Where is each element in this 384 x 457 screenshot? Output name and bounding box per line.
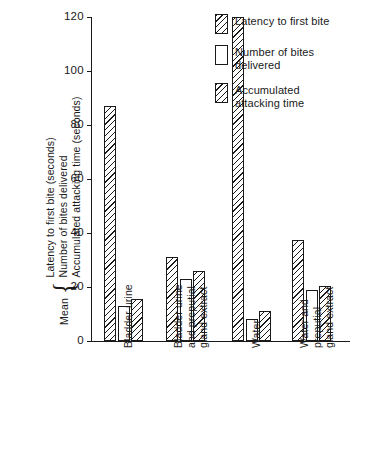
legend-label-latency: Latency to first bite xyxy=(235,14,329,28)
chart-legend: Latency to first bite Number of bites de… xyxy=(215,14,384,121)
x-axis-category-label-line: Bladder urine xyxy=(172,284,185,348)
y-axis-label-line-1: Latency to first bite (seconds) xyxy=(44,97,57,278)
y-axis-mean-label: Mean xyxy=(58,298,70,325)
y-axis-tick-label: 60 xyxy=(71,172,84,184)
y-axis-tick-mark xyxy=(87,179,92,180)
legend-label-line: delivered xyxy=(235,59,314,72)
x-axis-category-label-line: gland extract xyxy=(197,284,210,348)
x-axis-category-label-line: Water and xyxy=(298,287,311,348)
legend-label-line: Latency to first bite xyxy=(235,15,329,28)
y-axis-title-block: Mean { Latency to first bite (seconds) N… xyxy=(0,0,56,360)
x-axis-category-label: Water andpreputialgland extract xyxy=(298,287,336,348)
legend-item-latency: Latency to first bite xyxy=(215,14,384,34)
y-axis-tick-mark xyxy=(87,233,92,234)
legend-label-attacking-time: Accumulated attacking time xyxy=(235,83,304,110)
x-axis-category-label: Bladder urineand preputialgland extract xyxy=(172,284,210,348)
y-axis-tick-label: 100 xyxy=(64,64,84,76)
x-axis-category-label-line: and preputial xyxy=(184,284,197,348)
y-axis-tick-label: 0 xyxy=(77,334,84,346)
legend-swatch-hatched-icon xyxy=(215,83,228,103)
x-axis-category-label-line: Water xyxy=(250,320,263,348)
legend-label-line: Accumulated xyxy=(235,84,304,97)
y-axis-tick-mark xyxy=(87,287,92,288)
y-axis-label-line-2: Number of bites delivered xyxy=(57,97,70,278)
y-axis-tick-mark xyxy=(87,71,92,72)
legend-swatch-hatched-icon xyxy=(215,14,228,34)
y-axis-tick-label: 120 xyxy=(64,10,84,22)
y-axis-tick-mark xyxy=(87,17,92,18)
legend-item-bites: Number of bites delivered xyxy=(215,45,384,72)
legend-label-line: attacking time xyxy=(235,97,304,110)
x-axis-category-label-line: gland extract xyxy=(323,287,336,348)
bar xyxy=(104,106,116,341)
legend-item-attacking-time: Accumulated attacking time xyxy=(215,83,384,110)
bar-chart-figure: Mean { Latency to first bite (seconds) N… xyxy=(0,0,384,457)
y-axis-tick-mark xyxy=(87,341,92,342)
y-axis-tick-label: 80 xyxy=(71,118,84,130)
x-axis-category-label-line: Bladder urine xyxy=(122,284,135,348)
y-axis-tick-label: 20 xyxy=(71,280,84,292)
legend-label-bites: Number of bites delivered xyxy=(235,45,314,72)
legend-label-line: Number of bites xyxy=(235,46,314,59)
legend-swatch-open-icon xyxy=(215,45,228,65)
x-axis-category-label: Water xyxy=(250,320,263,348)
x-axis-category-label: Bladder urine xyxy=(122,284,135,348)
y-axis-tick-label: 40 xyxy=(71,226,84,238)
y-axis-tick-mark xyxy=(87,125,92,126)
x-axis-category-label-line: preputial xyxy=(310,287,323,348)
